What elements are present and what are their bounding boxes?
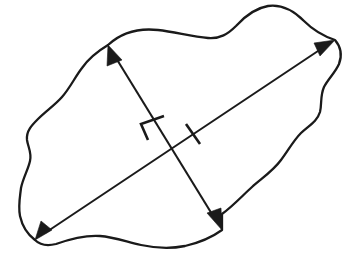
irregular-shape-diagram: Irregular closed shape with two crossing… [0, 0, 350, 261]
figure-canvas: Irregular closed shape with two crossing… [0, 0, 350, 261]
blob-outline-path [19, 6, 340, 248]
